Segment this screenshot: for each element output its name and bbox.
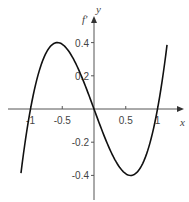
x-axis-arrow-icon [177,106,184,112]
x-tick-label: 0.5 [119,115,133,126]
y-tick-label: -0.2 [72,137,90,148]
x-axis-label: x [179,116,185,128]
plot: x y f' -1-0.50.51 0.40.2-0.2-0.4 [0,0,189,202]
y-tick-label: -0.4 [72,170,90,181]
y-axis-label: y [95,3,101,15]
x-tick-label: -0.5 [54,115,72,126]
y-tick-label: 0.4 [75,38,89,49]
y-axis-arrow-icon [91,16,97,23]
function-label: f' [82,13,88,25]
